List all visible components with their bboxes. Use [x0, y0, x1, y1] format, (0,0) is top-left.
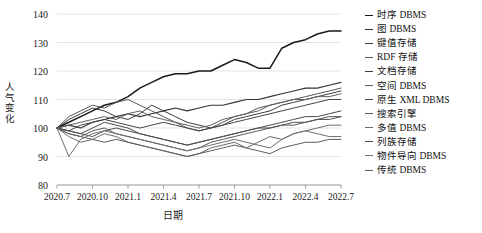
- legend-swatch-icon: [365, 127, 373, 128]
- legend-item[interactable]: 搜索引擎: [365, 107, 482, 121]
- legend-item-label: 时序 DBMS: [377, 10, 426, 20]
- legend-item-label: 空间 DBMS: [377, 81, 426, 91]
- x-axis-tick: 2021.1: [115, 192, 141, 202]
- legend-swatch-icon: [365, 85, 373, 86]
- chart-legend: 时序 DBMS图 DBMS键值存储RDF 存储文档存储空间 DBMS原生 XML…: [365, 8, 482, 177]
- legend-item[interactable]: 物件导向 DBMS: [365, 149, 482, 163]
- legend-item-label: 文档存储: [377, 66, 417, 76]
- legend-swatch-icon: [365, 99, 373, 100]
- legend-item-label: 多值 DBMS: [377, 123, 426, 133]
- legend-item-label: 键值存储: [377, 38, 417, 48]
- chart-root: 人气变化 8090100110120130140 2020.72020.1020…: [0, 0, 482, 233]
- legend-item-label: RDF 存储: [377, 52, 418, 62]
- x-axis-tick: 2021.4: [150, 192, 176, 202]
- x-axis-label: 日期: [0, 207, 345, 222]
- legend-swatch-icon: [365, 43, 373, 44]
- x-axis-tick: 2021.10: [219, 192, 250, 202]
- legend-item[interactable]: 图 DBMS: [365, 22, 482, 36]
- legend-item[interactable]: 多值 DBMS: [365, 121, 482, 135]
- legend-item[interactable]: 列族存储: [365, 135, 482, 149]
- legend-item[interactable]: 时序 DBMS: [365, 8, 482, 22]
- legend-swatch-icon: [365, 155, 373, 156]
- legend-item[interactable]: 传统 DBMS: [365, 163, 482, 177]
- legend-swatch-icon: [365, 71, 373, 72]
- x-axis-tick: 2022.7: [328, 192, 354, 202]
- series-line: [57, 117, 341, 151]
- legend-swatch-icon: [365, 141, 373, 142]
- legend-swatch-icon: [365, 57, 373, 58]
- legend-item-label: 传统 DBMS: [377, 165, 426, 175]
- legend-item[interactable]: RDF 存储: [365, 50, 482, 64]
- x-axis-tick: 2022.1: [257, 192, 283, 202]
- legend-item-label: 搜索引擎: [377, 109, 417, 119]
- legend-item-label: 物件导向 DBMS: [377, 151, 446, 161]
- legend-swatch-icon: [365, 29, 373, 30]
- series-line: [57, 82, 341, 128]
- legend-item[interactable]: 文档存储: [365, 64, 482, 78]
- x-axis-tick: 2021.7: [186, 192, 212, 202]
- legend-item[interactable]: 空间 DBMS: [365, 78, 482, 92]
- legend-item-label: 原生 XML DBMS: [377, 95, 449, 105]
- legend-swatch-icon: [365, 113, 373, 114]
- x-axis-tick: 2022.4: [292, 192, 318, 202]
- legend-item-label: 图 DBMS: [377, 24, 416, 34]
- series-line: [57, 31, 341, 128]
- series-line: [57, 100, 341, 131]
- legend-item-label: 列族存储: [377, 137, 417, 147]
- x-axis-tick: 2020.10: [77, 192, 108, 202]
- legend-item[interactable]: 原生 XML DBMS: [365, 93, 482, 107]
- legend-swatch-icon: [365, 170, 373, 171]
- legend-swatch-icon: [365, 15, 373, 16]
- x-axis-tick: 2020.7: [44, 192, 70, 202]
- series-line: [57, 94, 341, 128]
- legend-item[interactable]: 键值存储: [365, 36, 482, 50]
